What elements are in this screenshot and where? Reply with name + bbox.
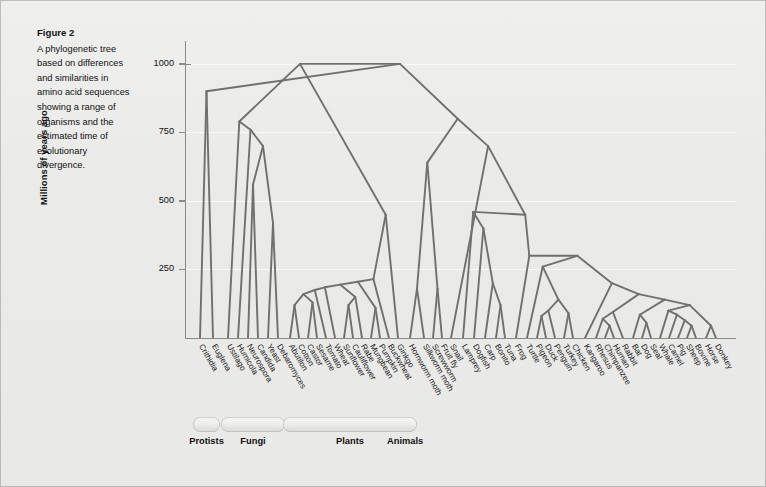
tree-branch: [690, 305, 711, 326]
tree-branch: [610, 326, 615, 338]
tree-branch: [543, 256, 578, 267]
tree-branch: [344, 305, 349, 338]
tree-branch: [295, 294, 304, 305]
tree-branch: [483, 228, 492, 283]
figure-caption: Figure 2 A phylogenetic tree based on di…: [37, 26, 133, 173]
tree-branch: [300, 64, 386, 215]
tree-branch: [251, 130, 264, 146]
tree-branch: [263, 146, 273, 223]
tree-branch: [253, 185, 258, 339]
group-bar: [283, 417, 417, 432]
tree-branch: [543, 267, 559, 300]
tree-branch: [433, 289, 438, 338]
tree-branch: [516, 256, 529, 338]
tree-branch: [668, 305, 689, 311]
tree-branch: [308, 302, 313, 338]
tree-branch: [248, 185, 253, 339]
y-tick-label: 750: [134, 126, 174, 136]
tree-branch: [304, 290, 315, 294]
tree-branch: [613, 294, 639, 312]
tree-branch: [612, 283, 639, 294]
tree-branch: [304, 294, 313, 302]
tree-branch: [325, 287, 335, 338]
group-bar: [221, 417, 285, 432]
tree-branch: [485, 283, 493, 338]
tree-branch: [569, 313, 574, 338]
tree-branch: [596, 319, 603, 338]
y-tick-label: 250: [134, 263, 174, 273]
tree-branch: [677, 315, 685, 321]
y-tick-label: 500: [134, 195, 174, 205]
tree-branch: [473, 212, 525, 215]
tree-branch: [669, 315, 677, 338]
tree-branch: [438, 289, 443, 338]
y-tick-mark: [179, 200, 186, 201]
tree-branch: [501, 305, 506, 338]
tree-branch: [400, 64, 458, 119]
figure-title: Figure 2: [37, 26, 133, 41]
tree-branch: [685, 320, 692, 326]
tree-branch: [417, 289, 424, 338]
tree-branch: [660, 311, 668, 338]
tree-branch: [496, 305, 501, 338]
tree-branch: [325, 285, 340, 288]
tree-branch: [340, 285, 355, 297]
tree-branch: [474, 228, 483, 338]
tree-branch: [340, 282, 358, 285]
tree-branch: [640, 300, 665, 315]
tree-branch: [386, 215, 398, 338]
phylogenetic-tree: [186, 42, 736, 338]
tree-branch: [493, 283, 501, 305]
tree-branch: [639, 294, 665, 300]
tree-branch: [200, 91, 207, 338]
y-axis-label: Millions of years ago: [38, 63, 49, 253]
tree-branch: [410, 289, 417, 338]
y-tick-mark: [179, 269, 186, 270]
tree-branch: [427, 119, 457, 163]
tree-branch: [548, 300, 558, 311]
figure-page: Figure 2 A phylogenetic tree based on di…: [0, 0, 766, 487]
tree-branch: [633, 315, 640, 338]
y-tick-label: 1000: [134, 58, 174, 68]
tree-branch: [642, 323, 647, 338]
tree-branch: [527, 267, 543, 338]
tree-branch: [417, 163, 427, 289]
tree-branch: [605, 326, 610, 338]
tree-branch: [558, 300, 568, 314]
tree-branch: [373, 215, 385, 279]
tree-branch: [603, 312, 613, 319]
tree-branch: [692, 326, 697, 338]
tree-branch: [358, 282, 376, 308]
tree-branch: [268, 223, 273, 338]
tree-branch: [295, 305, 300, 338]
tree-branch: [349, 305, 354, 338]
tree-branch: [239, 64, 300, 122]
tree-branch: [253, 146, 263, 184]
tree-branch: [640, 315, 647, 323]
tree-branch: [548, 311, 555, 338]
tree-branch: [678, 320, 685, 338]
tree-branch: [371, 308, 376, 338]
tree-branch: [488, 146, 525, 215]
tree-branch: [427, 163, 437, 289]
tree-branch: [228, 122, 239, 339]
y-tick-mark: [179, 132, 186, 133]
tree-branch: [542, 316, 547, 338]
tree-branch: [613, 312, 623, 338]
tree-branch: [564, 313, 569, 338]
tree-branch: [542, 311, 549, 317]
tree-branch: [358, 279, 374, 282]
tree-branch: [290, 305, 295, 338]
tree-branch: [355, 297, 362, 338]
group-bar: [193, 417, 220, 432]
tree-branch: [313, 302, 318, 338]
tree-branch: [665, 300, 690, 306]
tree-branch: [273, 223, 278, 338]
figure-caption-text: A phylogenetic tree based on differences…: [37, 44, 130, 171]
tree-branch: [706, 326, 711, 338]
tree-branch: [458, 119, 488, 146]
tree-branch: [537, 316, 542, 338]
tree-branch: [577, 256, 612, 283]
tree-branch: [711, 326, 716, 338]
tree-branch: [207, 91, 214, 338]
